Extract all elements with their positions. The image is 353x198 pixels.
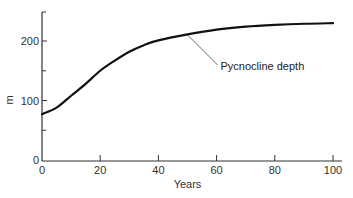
x-tick-label: 60 xyxy=(210,164,222,176)
x-tick-label: 20 xyxy=(94,164,106,176)
y-axis-title: m xyxy=(3,95,15,104)
labels: 0100200020406080100YearsmPycnocline dept… xyxy=(3,35,342,190)
x-tick-label: 80 xyxy=(269,164,281,176)
x-tick-label: 0 xyxy=(39,164,45,176)
x-tick-label: 100 xyxy=(324,164,342,176)
x-axis-title: Years xyxy=(174,178,202,190)
x-tick-label: 40 xyxy=(152,164,164,176)
annotation-leader-line xyxy=(188,35,218,65)
y-tick-label: 200 xyxy=(21,35,39,47)
chart: 0100200020406080100YearsmPycnocline dept… xyxy=(0,0,353,198)
annotation-label: Pycnocline depth xyxy=(221,60,305,72)
y-tick-label: 100 xyxy=(21,95,39,107)
